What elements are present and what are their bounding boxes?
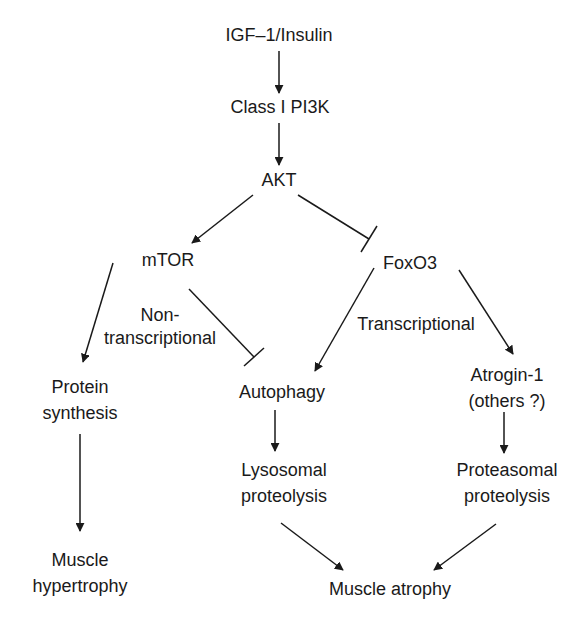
node-lysosomal-proteolysis-line1: Lysosomal: [241, 457, 327, 483]
node-atrogin-1-line2: (others ?): [468, 388, 545, 414]
node-proteasomal-proteolysis: Proteasomal proteolysis: [456, 457, 557, 509]
node-class-i-pi3k-label: Class I PI3K: [230, 97, 329, 117]
node-atrogin-1-line1: Atrogin-1: [468, 362, 545, 388]
node-muscle-hypertrophy-line2: hypertrophy: [32, 573, 127, 599]
node-foxo3-label: FoxO3: [383, 253, 437, 273]
node-muscle-atrophy-label: Muscle atrophy: [329, 579, 451, 599]
node-protein-synthesis-line1: Protein: [42, 374, 117, 400]
node-lysosomal-proteolysis-line2: proteolysis: [241, 483, 327, 509]
node-mtor-label: mTOR: [142, 250, 195, 270]
node-protein-synthesis-line2: synthesis: [42, 400, 117, 426]
node-akt: AKT: [261, 167, 296, 193]
node-igf-insulin: IGF–1/Insulin: [225, 22, 332, 48]
edge-proteasomal-atrophy-arrow: [434, 524, 496, 570]
node-muscle-atrophy: Muscle atrophy: [329, 576, 451, 602]
node-class-i-pi3k: Class I PI3K: [230, 94, 329, 120]
node-muscle-hypertrophy-line1: Muscle: [32, 547, 127, 573]
node-autophagy-label: Autophagy: [239, 382, 325, 402]
node-igf-insulin-label: IGF–1/Insulin: [225, 25, 332, 45]
edge-label-non-transcriptional-line2: transcriptional: [104, 327, 216, 350]
edge-label-transcriptional-line1: Transcriptional: [357, 313, 474, 336]
edge-akt-foxo3-inhibit: [298, 195, 369, 239]
node-protein-synthesis: Protein synthesis: [42, 374, 117, 426]
node-lysosomal-proteolysis: Lysosomal proteolysis: [241, 457, 327, 509]
edge-label-non-transcriptional-line1: Non-: [104, 304, 216, 327]
node-muscle-hypertrophy: Muscle hypertrophy: [32, 547, 127, 599]
node-mtor: mTOR: [142, 247, 195, 273]
node-foxo3: FoxO3: [383, 250, 437, 276]
inhibit-bar-foxo3: [361, 226, 377, 252]
node-proteasomal-proteolysis-line1: Proteasomal: [456, 457, 557, 483]
node-atrogin-1: Atrogin-1 (others ?): [468, 362, 545, 414]
node-autophagy: Autophagy: [239, 379, 325, 405]
edge-label-non-transcriptional: Non- transcriptional: [104, 304, 216, 350]
node-proteasomal-proteolysis-line2: proteolysis: [456, 483, 557, 509]
edge-label-transcriptional: Transcriptional: [357, 313, 474, 336]
edge-akt-mtor-arrow: [192, 195, 253, 243]
edge-lysosomal-atrophy-arrow: [281, 523, 343, 570]
node-akt-label: AKT: [261, 170, 296, 190]
